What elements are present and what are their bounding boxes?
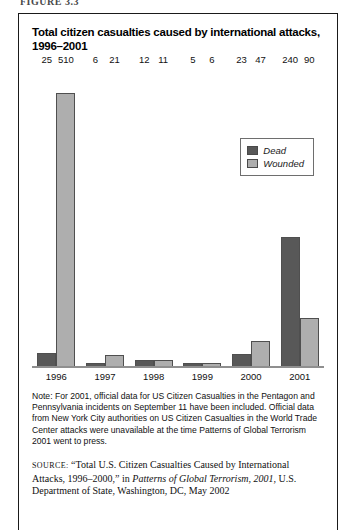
bar-dead-1999[interactable]: 5 (183, 66, 202, 366)
legend-label-dead: Dead (263, 146, 286, 156)
bar-wounded-2000[interactable]: 47 (251, 66, 270, 366)
legend-label-wounded: Wounded (263, 159, 304, 169)
note-label: Note: (32, 391, 53, 401)
note-text: For 2001, official data for US Citizen C… (32, 391, 317, 446)
bar-rect: 21 (105, 355, 124, 366)
bar-group-2001: 24090 (275, 66, 324, 366)
bar-group-1997: 621 (81, 66, 130, 366)
bar-rect: 23 (232, 354, 251, 366)
chart-plot-area: Dead Wounded 25510621121156234724090 199… (32, 53, 324, 383)
legend-swatch-dead (247, 146, 258, 155)
bar-value-label: 23 (236, 55, 247, 65)
x-axis-tick-labels: 199619971998199920002001 (32, 371, 324, 383)
x-axis-label-1999: 1999 (178, 371, 227, 383)
bar-dead-1997[interactable]: 6 (86, 66, 105, 366)
x-axis-label-1997: 1997 (81, 371, 130, 383)
bar-value-label: 240 (282, 55, 298, 65)
x-axis-label-2001: 2001 (275, 371, 324, 383)
bar-dead-2001[interactable]: 240 (281, 66, 300, 366)
bar-value-label: 6 (93, 55, 98, 65)
bar-value-label: 21 (109, 55, 120, 65)
bar-value-label: 25 (42, 55, 53, 65)
legend-swatch-wounded (247, 159, 258, 168)
bar-wounded-1998[interactable]: 11 (154, 66, 173, 366)
chart-note: Note: For 2001, official data for US Cit… (32, 391, 324, 447)
chart-title: Total citizen casualties caused by inter… (32, 26, 324, 53)
bar-wounded-1997[interactable]: 21 (105, 66, 124, 366)
source-in-word: in (122, 473, 130, 484)
x-axis-label-1996: 1996 (32, 371, 81, 383)
bar-dead-2000[interactable]: 23 (232, 66, 251, 366)
chart-source: SOURCE: “Total U.S. Citizen Casualties C… (32, 459, 324, 498)
bar-groups: 25510621121156234724090 (32, 66, 324, 366)
x-axis-label-1998: 1998 (129, 371, 178, 383)
figure-label: FIGURE 3.3 (20, 0, 79, 5)
bar-dead-1998[interactable]: 12 (135, 66, 154, 366)
bar-value-label: 11 (158, 55, 168, 65)
bar-dead-1996[interactable]: 25 (37, 66, 56, 366)
bar-group-1999: 56 (178, 66, 227, 366)
bar-group-1996: 25510 (32, 66, 81, 366)
bar-wounded-1996[interactable]: 510 (56, 66, 75, 366)
bar-rect: 90 (300, 318, 319, 366)
chart-legend: Dead Wounded (240, 138, 314, 176)
bar-value-label: 5 (190, 55, 195, 65)
bar-wounded-1999[interactable]: 6 (202, 66, 221, 366)
legend-item-wounded: Wounded (247, 157, 304, 170)
bar-value-label: 510 (58, 55, 74, 65)
bar-rect: 510 (56, 93, 75, 366)
bar-wounded-2001[interactable]: 90 (300, 66, 319, 366)
x-axis-line (32, 366, 324, 368)
bar-value-label: 90 (304, 55, 315, 65)
x-axis-label-2000: 2000 (227, 371, 276, 383)
bar-rect: 47 (251, 341, 270, 366)
source-publication: Patterns of Global Terrorism, 2001 (132, 473, 273, 484)
bar-group-1998: 1211 (129, 66, 178, 366)
bar-value-label: 6 (209, 55, 214, 65)
figure-frame: Total citizen casualties caused by inter… (18, 13, 338, 530)
legend-item-dead: Dead (247, 144, 304, 157)
bar-rect: 25 (37, 353, 56, 366)
bar-group-2000: 2347 (227, 66, 276, 366)
bar-value-label: 47 (255, 55, 266, 65)
source-label: SOURCE: (32, 461, 69, 470)
bar-rect: 240 (281, 237, 300, 366)
bar-value-label: 12 (139, 55, 150, 65)
